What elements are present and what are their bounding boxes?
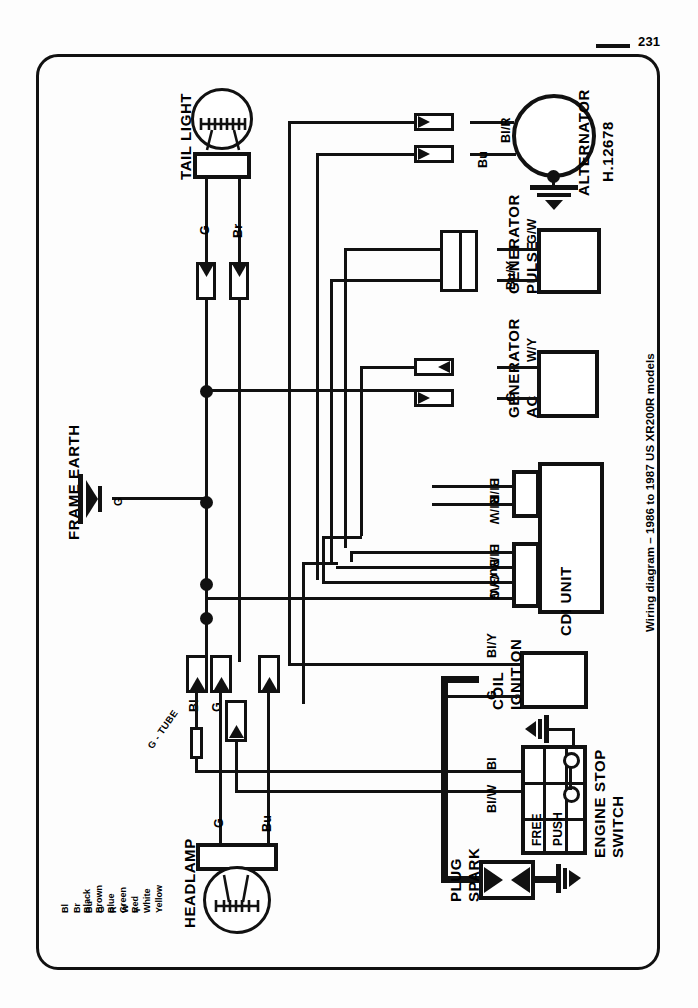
alternator-ground-icon (530, 185, 578, 211)
wire-label-tail-br: Br (232, 224, 245, 238)
page-number: 231 (638, 34, 660, 49)
wire-label-alt-blr: Bl/R (500, 117, 513, 143)
cdi-wire-g (205, 597, 514, 600)
switch-position-push: PUSH (552, 812, 564, 846)
switch-ground-icon (524, 713, 550, 745)
diagram-page: 231 TAIL LIGHT G Br (0, 0, 698, 1008)
pulse-gen-drop-1 (344, 248, 347, 548)
switch-wire-bl (258, 790, 521, 793)
ignition-coil-wire-bly (288, 663, 522, 666)
cdi-connector-lower (512, 542, 540, 608)
cdi-route-left-v (302, 562, 305, 704)
wire-label-ac-wy: W/Y (526, 338, 539, 362)
connector-pulse-divider (459, 230, 462, 292)
cdi-route-bly-v (350, 551, 353, 562)
switch-position-free: FREE (531, 813, 543, 846)
wire-label-frame-earth: G (113, 497, 124, 506)
mid-wire-bl-v (195, 693, 198, 729)
wire-label-pg-gw: G/W (526, 218, 539, 244)
spark-plug-title-line2: PLUG (448, 858, 465, 902)
tail-light-title: TAIL LIGHT (178, 93, 195, 180)
cdi-wire-blw (432, 503, 514, 506)
alternator-code: H.12678 (600, 121, 617, 182)
cdi-route-gw-v (322, 536, 325, 581)
cdi-wire-gw (322, 581, 514, 584)
pulse-gen-run-1 (344, 248, 442, 251)
wire-label-cdi-blw: Bl/W (488, 496, 501, 525)
mid-wire-lower-v (235, 742, 238, 792)
pulse-gen-drop-2 (330, 279, 333, 562)
cdi-route-gw-h (322, 536, 362, 539)
ac-gen-run-g-to-bus (205, 389, 416, 392)
frame-earth-wire (112, 497, 206, 500)
filament-icon (216, 875, 258, 912)
ignition-coil-box (520, 651, 588, 709)
alternator-drop-1 (288, 121, 291, 664)
alternator-drop-2 (316, 153, 319, 580)
g-tube-symbol (190, 727, 203, 759)
ignition-coil-wire-g (444, 695, 522, 698)
ac-gen-run-1 (360, 366, 416, 369)
wire-label-coil-g: G (486, 690, 499, 700)
switch-wire-blw (302, 770, 521, 773)
wire-label-switch-bl: Bl (486, 757, 499, 770)
mid-wire-bl-v2 (195, 757, 198, 771)
filament-icon (201, 118, 245, 150)
wire-label-cdi-g: G (488, 590, 501, 600)
ht-lead-vertical (441, 676, 448, 882)
spark-plug-ground-icon (556, 862, 584, 895)
pulse-gen-wire-gw (497, 248, 539, 251)
cdi-connector-upper (512, 470, 540, 518)
tail-light-wire-g (205, 179, 208, 262)
ignition-coil-title-line1: IGNITION (508, 639, 525, 710)
junction-node-3 (200, 578, 213, 591)
mid-wire-lower-h (235, 790, 261, 793)
alternator-title: ALTERNATOR (576, 89, 593, 196)
ac-gen-wire-wy (497, 366, 539, 369)
wire-label-pg-buy: Bu/Y (505, 261, 518, 290)
alternator-run-1 (288, 121, 416, 124)
wire-label-alt-bu: Bu (477, 151, 490, 168)
ac-generator-box (537, 350, 599, 418)
cdi-route-left-h (302, 562, 338, 565)
spark-plug-icon (484, 865, 530, 895)
mid-wire-bl-h (195, 770, 305, 773)
wire-label-head-g: G (213, 818, 226, 828)
pulse-generator-box (537, 228, 601, 294)
bus-brown-vertical (238, 300, 241, 662)
cdi-wire-blr (432, 485, 514, 488)
alternator-run-2 (316, 153, 416, 156)
tail-light-wire-br (238, 179, 241, 262)
switch-contact-bridge (569, 766, 572, 790)
ht-lead-top (441, 676, 479, 683)
junction-node-4 (200, 612, 213, 625)
mid-wire-g-v (219, 693, 222, 793)
wire-label-coil-bly: Bl/Y (486, 633, 499, 658)
bus-green-vertical (205, 300, 208, 662)
page-rule (596, 44, 630, 48)
legend-names: Black Brown Blue Green Red White Yellow (82, 885, 166, 913)
figure-caption: Wiring diagram – 1986 to 1987 US XR200R … (644, 353, 656, 632)
wire-label-ac-g: G (505, 392, 518, 402)
wire-label-switch-blw: Bl/W (486, 784, 499, 813)
headlamp-title: HEADLAMP (182, 838, 199, 928)
cdi-unit-title: CDI UNIT (558, 566, 575, 636)
engine-stop-switch-title-line2: SWITCH (610, 795, 627, 858)
wire-label-head-bu: Bu (261, 815, 274, 832)
switch-ground-lead-v (572, 728, 575, 748)
spark-plug-title-line1: SPARK (466, 848, 483, 902)
engine-stop-switch-title-line1: ENGINE STOP (592, 749, 609, 858)
wire-label-tail-g: G (199, 225, 212, 235)
